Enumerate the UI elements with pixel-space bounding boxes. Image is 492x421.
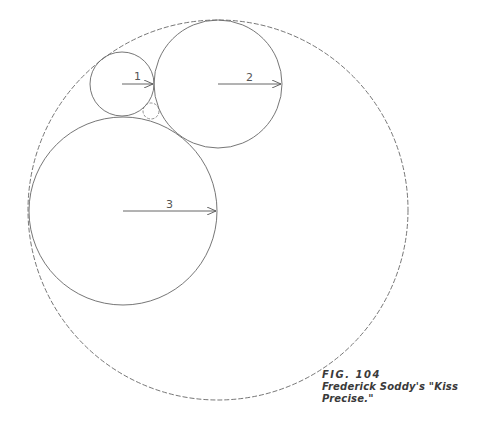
soddy-diagram: 1 2 3 bbox=[0, 0, 492, 421]
outer-circle bbox=[28, 20, 408, 400]
figure-caption: FIG. 104 Frederick Soddy's "Kiss Precise… bbox=[322, 369, 492, 405]
figure-title: Frederick Soddy's "Kiss Precise." bbox=[322, 381, 492, 405]
label-1: 1 bbox=[134, 70, 141, 83]
label-2: 2 bbox=[246, 71, 253, 84]
label-3: 3 bbox=[166, 198, 173, 211]
figure-number: FIG. 104 bbox=[322, 369, 492, 381]
